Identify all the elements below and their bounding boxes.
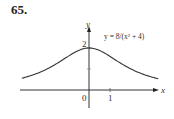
x-tick-label-1: 1 (108, 93, 113, 103)
x-axis-label: x (160, 85, 165, 95)
equation-label: y = 8/(x² + 4) (104, 32, 145, 41)
y-axis-label: y (85, 19, 90, 29)
x-axis-arrow-icon (153, 88, 159, 92)
y-tick-label-2: 2 (82, 39, 87, 49)
function-graph: x y 0 1 2 y = 8/(x² + 4) (0, 0, 174, 119)
function-curve (22, 48, 159, 79)
x-tick-label-0: 0 (82, 93, 87, 103)
